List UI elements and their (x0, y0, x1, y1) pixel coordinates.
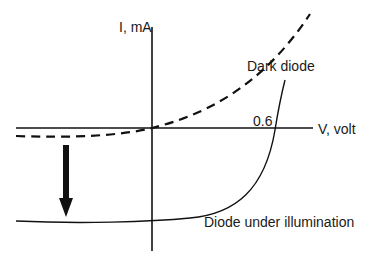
illuminated-diode-curve (16, 80, 285, 222)
y-axis-label: I, mA (119, 19, 152, 35)
x-axis-label: V, volt (318, 121, 356, 137)
tick-label-0-6: 0.6 (253, 113, 272, 129)
dark-diode-label: Dark diode (247, 58, 315, 74)
illuminated-diode-label: Diode under illumination (204, 214, 354, 230)
down-arrow-icon (59, 145, 73, 217)
iv-diagram: I, mA V, volt 0.6 Dark diode Diode under… (0, 0, 376, 261)
